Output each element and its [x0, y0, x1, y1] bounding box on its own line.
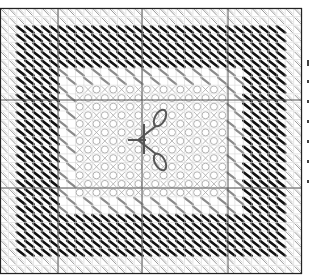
side-mark	[307, 140, 309, 143]
side-mark	[307, 160, 309, 163]
stitch-chart	[0, 0, 313, 275]
side-mark	[307, 100, 309, 103]
side-marks	[303, 60, 313, 210]
side-mark	[307, 120, 309, 123]
side-mark	[307, 60, 309, 66]
side-mark	[307, 80, 309, 83]
side-mark	[307, 180, 309, 183]
